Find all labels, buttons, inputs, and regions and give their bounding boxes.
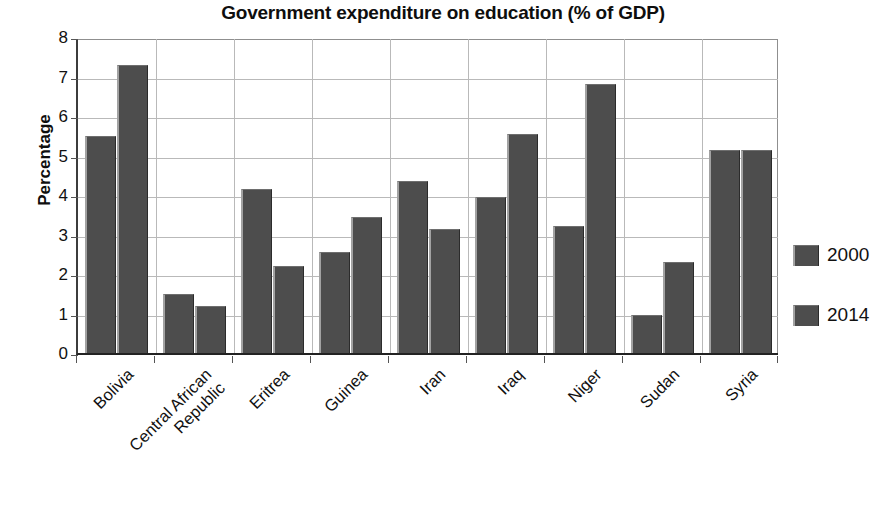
bottom-artifact-strip [0, 498, 886, 506]
x-axis-tick-mark [544, 356, 545, 363]
y-axis-tick-label: 7 [10, 68, 68, 88]
legend-label: 2000 [827, 244, 869, 266]
y-axis-tick-mark [71, 237, 78, 238]
x-axis-tick-mark [777, 356, 778, 363]
legend-item[interactable]: 2000 [793, 243, 869, 267]
y-axis-tick-label: 1 [10, 305, 68, 325]
bar-group [312, 39, 390, 353]
bar[interactable] [553, 226, 584, 353]
bar[interactable] [663, 262, 694, 353]
x-axis-tick-marks [76, 356, 778, 364]
y-axis-tick-mark [71, 79, 78, 80]
y-axis-tick-mark [71, 276, 78, 277]
y-axis-tick-mark [71, 316, 78, 317]
bar[interactable] [429, 229, 460, 353]
y-axis-tick-label: 3 [10, 226, 68, 246]
bar[interactable] [241, 189, 272, 353]
x-axis-tick-mark [466, 356, 467, 363]
bar-group [546, 39, 624, 353]
legend-swatch-icon [793, 305, 819, 326]
bar[interactable] [273, 266, 304, 353]
bar[interactable] [117, 65, 148, 353]
y-axis-tick-label: 5 [10, 147, 68, 167]
y-axis-tick-label: 6 [10, 107, 68, 127]
bar-group [624, 39, 702, 353]
chart-legend: 20002014 [793, 243, 869, 363]
bar-group [156, 39, 234, 353]
bars-layer [78, 39, 778, 353]
bar-group [468, 39, 546, 353]
x-axis-tick-mark [76, 356, 77, 363]
legend-swatch-icon [793, 245, 819, 266]
bar[interactable] [397, 181, 428, 353]
y-axis-tick-label: 4 [10, 186, 68, 206]
legend-item[interactable]: 2014 [793, 303, 869, 327]
bar[interactable] [85, 136, 116, 353]
y-axis-tick-label: 0 [10, 344, 68, 364]
x-axis-tick-mark [622, 356, 623, 363]
bar[interactable] [319, 252, 350, 354]
chart-container: Government expenditure on education (% o… [0, 0, 886, 508]
x-axis-tick-mark [388, 356, 389, 363]
bar[interactable] [351, 217, 382, 353]
bar-group [390, 39, 468, 353]
bar[interactable] [585, 84, 616, 353]
legend-label: 2014 [827, 304, 869, 326]
bar[interactable] [507, 134, 538, 353]
y-axis-tick-mark [71, 158, 78, 159]
x-axis-tick-mark [310, 356, 311, 363]
y-axis-tick-mark [71, 197, 78, 198]
x-axis-tick-mark [232, 356, 233, 363]
x-axis-tick-mark [700, 356, 701, 363]
y-axis-tick-mark [71, 39, 78, 40]
y-axis-tick-mark [71, 118, 78, 119]
bar-group [78, 39, 156, 353]
x-axis-tick-mark [154, 356, 155, 363]
bar-group [702, 39, 780, 353]
bar[interactable] [195, 306, 226, 353]
bar[interactable] [631, 315, 662, 353]
bar[interactable] [709, 150, 740, 353]
y-axis-tick-label: 2 [10, 265, 68, 285]
bar-group [234, 39, 312, 353]
chart-title: Government expenditure on education (% o… [0, 2, 886, 24]
plot-area [76, 39, 778, 355]
bar[interactable] [741, 150, 772, 353]
bar[interactable] [163, 294, 194, 353]
y-axis-tick-label: 8 [10, 28, 68, 48]
bar[interactable] [475, 197, 506, 353]
